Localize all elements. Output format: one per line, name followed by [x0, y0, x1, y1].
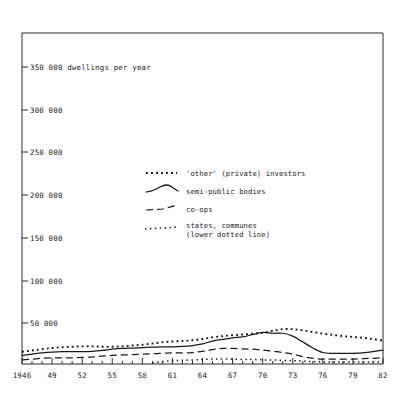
x-tick-label-52: 52: [78, 371, 87, 380]
chart-legend: 'other' (private) investors semi-public …: [145, 169, 306, 239]
x-tick-label-64: 64: [198, 371, 208, 380]
y-tick-label-300000: 300 000: [30, 106, 63, 115]
legend-symbol-dashed-icon: [146, 205, 178, 210]
y-tick-label-50000: 50 000: [30, 319, 58, 328]
x-tick-label-61: 61: [168, 371, 177, 380]
x-tick-label-82: 82: [378, 371, 387, 380]
plot-frame: [22, 33, 383, 364]
series-group: [22, 329, 383, 363]
x-tick-label-73: 73: [288, 371, 297, 380]
x-tick-label-58: 58: [138, 371, 147, 380]
y-axis-top-label: 350 000 dwellings per year: [30, 63, 151, 72]
x-tick-label-70: 70: [258, 371, 267, 380]
legend-label-states-communes-note: (lower dotted line): [186, 230, 270, 239]
series-states-communes: [152, 359, 383, 363]
x-tick-label-55: 55: [108, 371, 117, 380]
series-other-private-investors: [22, 329, 383, 352]
x-tick-label-67: 67: [228, 371, 237, 380]
x-tick-label-1946: 1946: [13, 371, 32, 380]
x-tick-label-49: 49: [47, 371, 56, 380]
legend-label-other-private-investors: 'other' (private) investors: [186, 169, 306, 178]
x-tick-label-76: 76: [318, 371, 327, 380]
series-semi-public-bodies: [22, 332, 383, 355]
legend-label-co-ops: co-ops: [186, 205, 213, 214]
y-tick-label-150000: 150 000: [30, 234, 63, 243]
legend-label-states-communes: states, communes: [186, 221, 257, 230]
chart-canvas: 350 000 dwellings per year 300 000 250 0…: [0, 0, 407, 394]
y-tick-label-200000: 200 000: [30, 191, 63, 200]
x-axis-labels: 1946495255586164677073767982: [13, 371, 388, 380]
y-axis-labels: 350 000 dwellings per year 300 000 250 0…: [30, 63, 151, 328]
legend-symbol-dotted-small-icon: [145, 227, 177, 229]
legend-symbol-solid-wave-icon: [146, 185, 178, 192]
y-tick-label-100000: 100 000: [30, 277, 63, 286]
y-axis-ticks: [22, 67, 28, 323]
chart-figure: 350 000 dwellings per year 300 000 250 0…: [0, 0, 407, 394]
x-tick-label-79: 79: [348, 371, 357, 380]
y-tick-label-250000: 250 000: [30, 148, 63, 157]
legend-label-semi-public-bodies: semi-public bodies: [186, 187, 266, 196]
